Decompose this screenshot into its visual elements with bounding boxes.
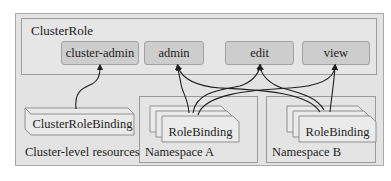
namespace-a-rolebinding: RoleBinding (162, 122, 239, 142)
namespace-b-rolebinding: RoleBinding (299, 122, 376, 142)
diagram-graphics (0, 0, 391, 181)
cluster-role-binding: ClusterRoleBinding (31, 114, 134, 135)
edge-nsb-to-edit (260, 67, 324, 110)
edge-crb-to-cluster-admin (76, 67, 100, 109)
edge-nsb-to-admin (178, 67, 320, 112)
